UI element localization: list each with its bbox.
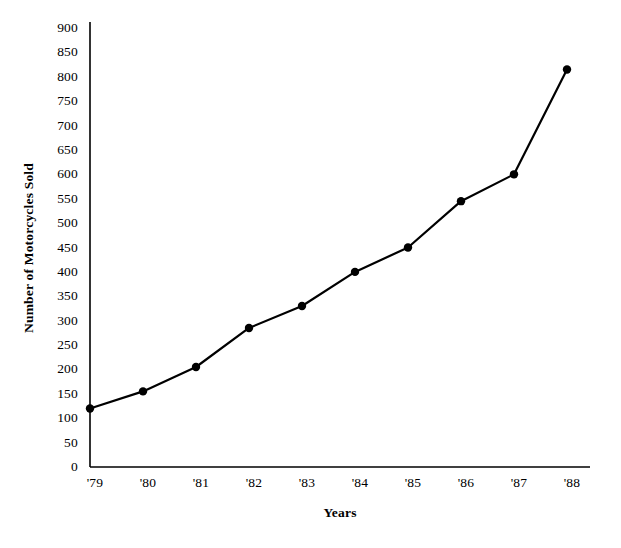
data-point-markers [86, 65, 571, 412]
data-point [245, 324, 253, 332]
x-tick-label: '81 [171, 476, 231, 490]
x-tick-label: '80 [118, 476, 178, 490]
x-tick-label: '82 [224, 476, 284, 490]
data-point [563, 65, 571, 73]
data-point [404, 243, 412, 251]
x-tick-label: '79 [65, 476, 125, 490]
x-axis-title: Years [90, 505, 590, 521]
data-point [351, 268, 359, 276]
data-point [86, 404, 94, 412]
x-tick-label: '84 [330, 476, 390, 490]
x-tick-label: '88 [542, 476, 602, 490]
data-point [139, 387, 147, 395]
data-point [298, 302, 306, 310]
line-chart: Number of Motorcycles Sold 0501001502002… [0, 0, 621, 548]
x-tick-label: '85 [383, 476, 443, 490]
data-point [457, 197, 465, 205]
x-tick-label: '83 [277, 476, 337, 490]
plot-area [0, 0, 621, 548]
data-point [510, 170, 518, 178]
x-tick-label: '86 [436, 476, 496, 490]
data-line [90, 69, 567, 408]
data-point [192, 363, 200, 371]
x-tick-label: '87 [489, 476, 549, 490]
axis-lines [90, 22, 590, 467]
